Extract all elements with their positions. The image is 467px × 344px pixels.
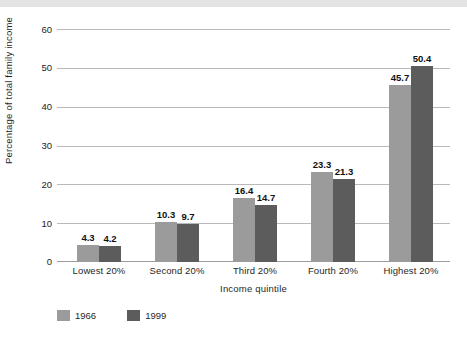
bar-1966-highest-20[interactable]: 45.7	[389, 85, 411, 262]
legend-item-1999[interactable]: 1999	[127, 310, 166, 321]
bar-1966-lowest-20[interactable]: 4.3	[77, 245, 99, 262]
bar-value-1966-highest-20: 45.7	[391, 72, 410, 83]
x-axis-title: Income quintile	[57, 283, 450, 294]
y-tick-50: 50	[20, 62, 52, 73]
bar-value-1999-highest-20: 50.4	[413, 53, 432, 64]
bar-chart: 60 50 40 30 20 10 0 Percentage of total …	[0, 0, 467, 344]
bar-1966-third-20[interactable]: 16.4	[233, 198, 255, 262]
legend-swatch-1999	[127, 310, 140, 321]
bar-1966-fourth-20[interactable]: 23.3	[311, 172, 333, 262]
y-tick-40: 40	[20, 101, 52, 112]
bar-1999-third-20[interactable]: 14.7	[255, 205, 277, 262]
bar-1999-highest-20[interactable]: 50.4	[411, 66, 433, 262]
bar-value-1999-fourth-20: 21.3	[335, 166, 354, 177]
plot-area: 4.3 4.2 Lowest 20% 10.3 9.7 Second 20% 1…	[57, 29, 450, 262]
bar-value-1966-fourth-20: 23.3	[313, 159, 332, 170]
bar-value-1966-lowest-20: 4.3	[81, 232, 94, 243]
legend-label-1966: 1966	[75, 310, 96, 321]
bar-value-1966-second-20: 10.3	[157, 209, 176, 220]
legend-label-1999: 1999	[145, 310, 166, 321]
y-axis-title: Percentage of total family income	[3, 0, 14, 206]
bar-1999-second-20[interactable]: 9.7	[177, 224, 199, 262]
bar-value-1999-second-20: 9.7	[181, 211, 194, 222]
bar-value-1999-lowest-20: 4.2	[103, 233, 116, 244]
bar-1966-second-20[interactable]: 10.3	[155, 222, 177, 262]
bar-1999-fourth-20[interactable]: 21.3	[333, 179, 355, 262]
gridline-60	[57, 29, 450, 30]
legend-item-1966[interactable]: 1966	[57, 310, 96, 321]
bar-value-1966-third-20: 16.4	[235, 185, 254, 196]
x-tick-highest-20: Highest 20%	[351, 265, 467, 276]
chart-legend: 1966 1999	[57, 310, 197, 321]
y-tick-30: 30	[20, 140, 52, 151]
y-tick-20: 20	[20, 179, 52, 190]
bar-1999-lowest-20[interactable]: 4.2	[99, 246, 121, 262]
bar-value-1999-third-20: 14.7	[257, 192, 276, 203]
gridline-50	[57, 68, 450, 69]
y-tick-10: 10	[20, 218, 52, 229]
y-tick-60: 60	[20, 24, 52, 35]
legend-swatch-1966	[57, 310, 70, 321]
